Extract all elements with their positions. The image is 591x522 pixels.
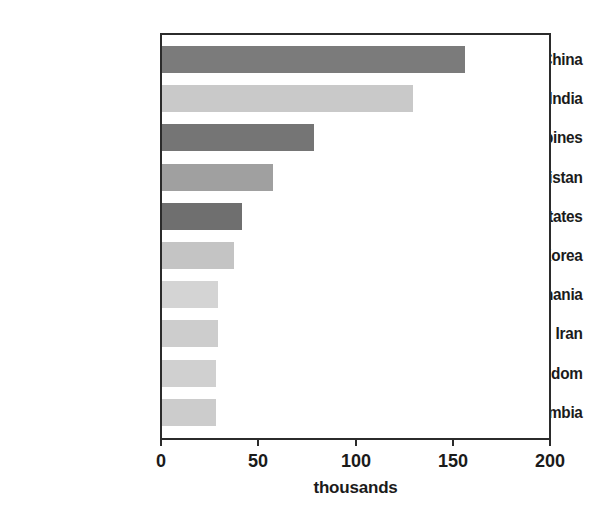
bar-row (162, 399, 553, 426)
x-tick-mark (257, 438, 259, 446)
x-tick-mark (452, 438, 454, 446)
x-tick-label-150: 150 (438, 450, 468, 472)
bar-chart: ChinaIndiaPhilippinesPakistanUnited Stat… (0, 0, 591, 522)
bar-row (162, 242, 553, 269)
bar (162, 203, 242, 230)
bar (162, 399, 216, 426)
bar-row (162, 320, 553, 347)
bar-row (162, 281, 553, 308)
bar-row (162, 203, 553, 230)
bar-row (162, 360, 553, 387)
bar (162, 320, 218, 347)
bar (162, 360, 216, 387)
bar (162, 281, 218, 308)
bar-row (162, 124, 553, 151)
x-tick-mark (549, 438, 551, 446)
x-tick-mark (160, 438, 162, 446)
bar (162, 164, 273, 191)
x-axis-title: thousands (160, 478, 551, 498)
bar-row (162, 46, 553, 73)
x-tick-label-50: 50 (248, 450, 268, 472)
x-tick-label-200: 200 (535, 450, 565, 472)
plot-area (160, 33, 551, 440)
x-tick-mark (355, 438, 357, 446)
bar (162, 46, 465, 73)
bar (162, 124, 314, 151)
x-tick-label-0: 0 (156, 450, 166, 472)
x-tick-label-100: 100 (340, 450, 370, 472)
bar-row (162, 164, 553, 191)
bar-row (162, 85, 553, 112)
bar (162, 242, 234, 269)
bar (162, 85, 413, 112)
x-axis: 050100150200 (160, 438, 551, 440)
